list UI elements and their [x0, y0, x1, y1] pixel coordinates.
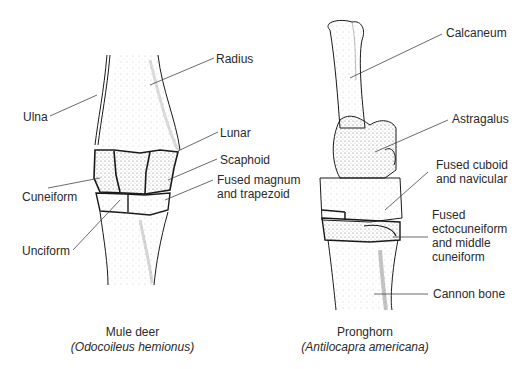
- label-fused-ecto-line1: Fused: [432, 208, 465, 222]
- caption-common-name: Mule deer: [106, 325, 159, 339]
- label-ulna: Ulna: [23, 110, 48, 124]
- label-astragalus: Astragalus: [452, 112, 509, 126]
- label-fused-ecto-line4: cuneiform: [432, 250, 485, 264]
- label-unciform: Unciform: [22, 244, 70, 258]
- label-fused-cuboid-line2: and navicular: [436, 172, 507, 186]
- caption-pronghorn: Pronghorn (Antilocapra americana): [290, 325, 440, 355]
- label-fused-magnum-line2: and trapezoid: [217, 187, 290, 201]
- caption-mule-deer: Mule deer (Odocoileus hemionus): [60, 325, 205, 355]
- label-fused-ecto-line2: ectocuneiform: [432, 222, 507, 236]
- caption-scientific-name: (Antilocapra americana): [290, 340, 440, 355]
- pronghorn-tarsus-drawing: [320, 20, 402, 310]
- label-fused-magnum-line1: Fused magnum: [217, 173, 300, 187]
- label-fused-ecto-line3: and middle: [432, 236, 491, 250]
- label-lunar: Lunar: [220, 126, 251, 140]
- caption-common-name: Pronghorn: [337, 325, 393, 339]
- label-radius: Radius: [216, 52, 253, 66]
- label-scaphoid: Scaphoid: [220, 153, 270, 167]
- caption-scientific-name: (Odocoileus hemionus): [60, 340, 205, 355]
- label-calcaneum: Calcaneum: [446, 26, 507, 40]
- label-cuneiform: Cuneiform: [22, 190, 77, 204]
- label-cannon-bone: Cannon bone: [433, 287, 505, 301]
- mule-deer-carpus-drawing: [94, 55, 180, 285]
- label-fused-cuboid-line1: Fused cuboid: [436, 158, 508, 172]
